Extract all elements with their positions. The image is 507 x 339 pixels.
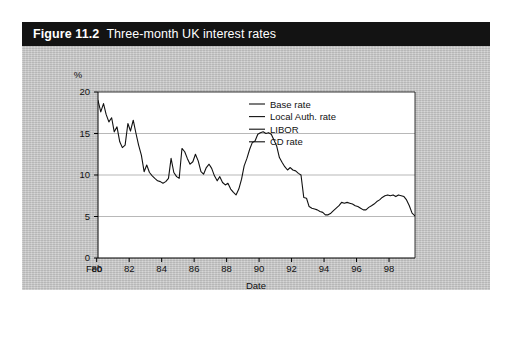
y-tick-label-10: 10: [79, 169, 90, 180]
y-axis-label: %: [74, 69, 83, 80]
x-tick-label-82: 82: [124, 263, 135, 274]
legend-label-libor: LIBOR: [270, 124, 299, 135]
figure-title: Three-month UK interest rates: [106, 27, 276, 41]
x-axis-ticks: 80828486889092949698: [91, 258, 394, 274]
legend-label-base-rate: Base rate: [270, 99, 311, 110]
interest-rate-line-chart: 05101520 80828486889092949698 % Date Feb…: [22, 46, 490, 290]
y-axis-ticks: 05101520: [79, 86, 98, 263]
x-tick-label-86: 86: [189, 263, 200, 274]
x-tick-label-92: 92: [286, 263, 297, 274]
x-tick-label-98: 98: [384, 263, 395, 274]
x-tick-label-90: 90: [254, 263, 265, 274]
y-tick-label-20: 20: [79, 86, 90, 97]
figure-container: Figure 11.2 Three-month UK interest rate…: [22, 22, 490, 290]
figure-body-panel: 05101520 80828486889092949698 % Date Feb…: [22, 46, 490, 290]
y-tick-label-15: 15: [79, 128, 90, 139]
x-axis-start-prefix: Feb: [86, 263, 102, 274]
legend-label-local-auth-rate: Local Auth. rate: [270, 111, 336, 122]
x-tick-label-96: 96: [351, 263, 362, 274]
x-axis-label: Date: [246, 280, 266, 290]
x-tick-label-84: 84: [156, 263, 167, 274]
legend-label-cd-rate: CD rate: [270, 136, 303, 147]
y-tick-label-0: 0: [85, 252, 90, 263]
y-tick-label-5: 5: [85, 211, 90, 222]
x-tick-label-94: 94: [319, 263, 330, 274]
figure-number-label: Figure 11.2: [33, 27, 99, 41]
x-tick-label-88: 88: [221, 263, 232, 274]
figure-header: Figure 11.2 Three-month UK interest rate…: [22, 22, 490, 46]
